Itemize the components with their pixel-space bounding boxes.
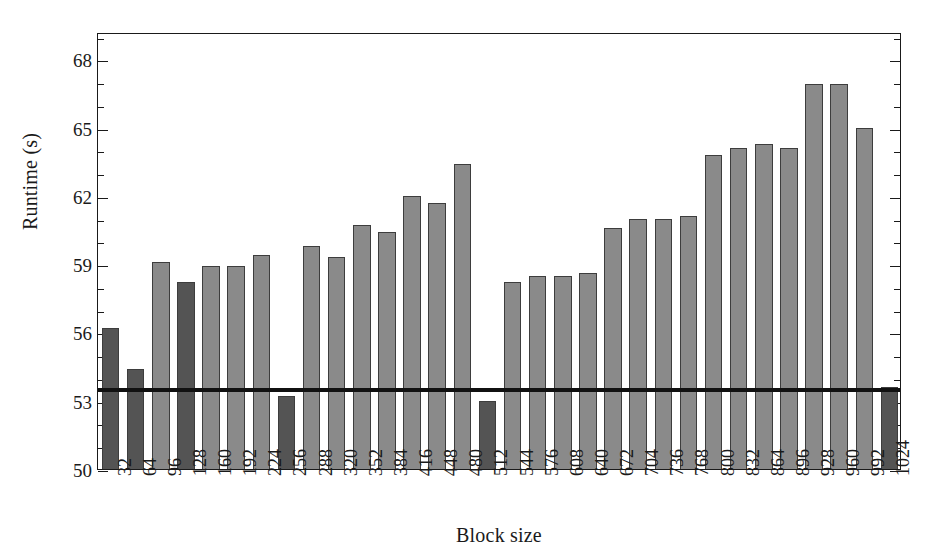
- bar: [629, 219, 647, 469]
- bar: [303, 246, 321, 469]
- x-axis-title: Block size: [97, 524, 901, 547]
- x-tick-label: 928: [819, 449, 837, 476]
- bar: [504, 282, 522, 469]
- bar: [680, 216, 698, 469]
- bar: [202, 266, 220, 469]
- bar: [805, 84, 823, 469]
- bar: [102, 328, 120, 469]
- bar: [655, 219, 673, 469]
- bar: [554, 276, 572, 469]
- y-tick-label: 50: [2, 461, 92, 480]
- x-tick-label: 128: [191, 449, 209, 476]
- x-tick-label: 960: [844, 449, 862, 476]
- y-axis-tick-labels: 50535659626568: [0, 0, 92, 554]
- bar: [127, 369, 145, 469]
- x-tick-label: 896: [794, 449, 812, 476]
- plot-area: [97, 33, 901, 470]
- x-tick-label: 384: [392, 449, 410, 476]
- x-tick-label: 256: [291, 449, 309, 476]
- x-tick-label: 288: [317, 449, 335, 476]
- bar: [856, 128, 874, 469]
- bar: [353, 225, 371, 469]
- x-tick-label: 160: [216, 449, 234, 476]
- x-tick-label: 1024: [894, 440, 912, 476]
- bar-series: [98, 34, 900, 469]
- bar: [830, 84, 848, 469]
- bar: [730, 148, 748, 469]
- x-tick-label: 320: [342, 449, 360, 476]
- x-tick-label: 64: [141, 458, 159, 476]
- x-tick-label: 224: [266, 449, 284, 476]
- x-tick-label: 768: [693, 449, 711, 476]
- x-tick-label: 832: [744, 449, 762, 476]
- bar: [604, 228, 622, 469]
- y-tick-label: 68: [2, 51, 92, 70]
- bar: [253, 255, 271, 469]
- bar: [227, 266, 245, 469]
- bar: [755, 144, 773, 469]
- y-tick-label: 65: [2, 119, 92, 138]
- bar: [705, 155, 723, 469]
- bar: [177, 282, 195, 469]
- y-tick-label: 59: [2, 256, 92, 275]
- x-tick-label: 640: [593, 449, 611, 476]
- bar: [454, 164, 472, 469]
- bar-chart-figure: Runtime (s) 50535659626568 3264961281601…: [0, 0, 927, 554]
- bar: [328, 257, 346, 469]
- bar: [152, 262, 170, 469]
- y-tick-label: 62: [2, 187, 92, 206]
- x-tick-label: 96: [166, 458, 184, 476]
- bar: [529, 276, 547, 469]
- bar: [378, 232, 396, 469]
- x-tick-label: 544: [518, 449, 536, 476]
- x-tick-label: 576: [543, 449, 561, 476]
- x-tick-label: 800: [719, 449, 737, 476]
- reference-line: [98, 388, 900, 392]
- x-tick-label: 352: [367, 449, 385, 476]
- x-tick-label: 992: [869, 449, 887, 476]
- x-tick-label: 480: [467, 449, 485, 476]
- x-tick-label: 736: [668, 449, 686, 476]
- y-tick-label: 53: [2, 392, 92, 411]
- x-tick-label: 32: [116, 458, 134, 476]
- x-tick-label: 192: [241, 449, 259, 476]
- x-tick-label: 512: [492, 449, 510, 476]
- x-tick-label: 864: [769, 449, 787, 476]
- x-tick-label: 704: [643, 449, 661, 476]
- bar: [428, 203, 446, 469]
- bar: [780, 148, 798, 469]
- bar: [403, 196, 421, 469]
- bar: [579, 273, 597, 469]
- x-tick-label: 448: [442, 449, 460, 476]
- y-tick-label: 56: [2, 324, 92, 343]
- x-tick-label: 608: [568, 449, 586, 476]
- x-tick-label: 672: [618, 449, 636, 476]
- x-tick-label: 416: [417, 449, 435, 476]
